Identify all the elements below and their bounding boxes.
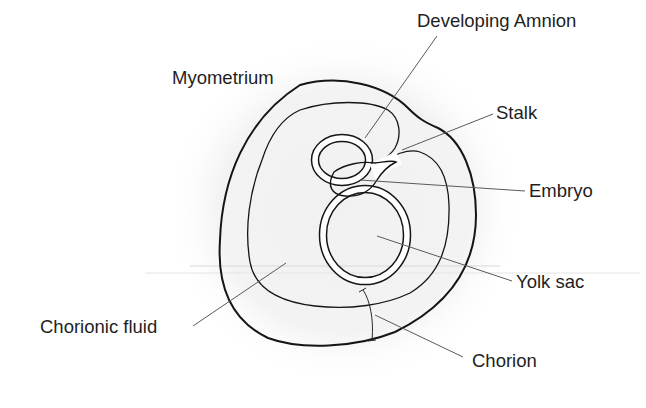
- label-myometrium: Myometrium: [172, 67, 274, 88]
- embryo-diagram: Myometrium Developing Amnion Stalk Embry…: [0, 0, 646, 408]
- label-chorion: Chorion: [472, 350, 537, 371]
- label-chorionic-fluid: Chorionic fluid: [40, 316, 157, 337]
- label-yolk-sac: Yolk sac: [516, 271, 584, 292]
- label-stalk: Stalk: [496, 102, 538, 123]
- label-developing-amnion: Developing Amnion: [417, 10, 576, 31]
- label-embryo: Embryo: [529, 180, 593, 201]
